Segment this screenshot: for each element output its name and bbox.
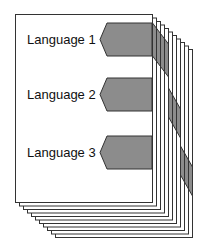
tab-1-shape [100, 23, 152, 56]
tab-3-shape [100, 136, 152, 169]
tab-2-shape [100, 78, 152, 111]
tab-2-label: Language 2 [27, 87, 96, 102]
tab-1-label: Language 1 [27, 32, 96, 47]
tab-3-label: Language 3 [27, 145, 96, 160]
document-stack-diagram: Language 1 Language 2 Language 3 [0, 0, 204, 239]
